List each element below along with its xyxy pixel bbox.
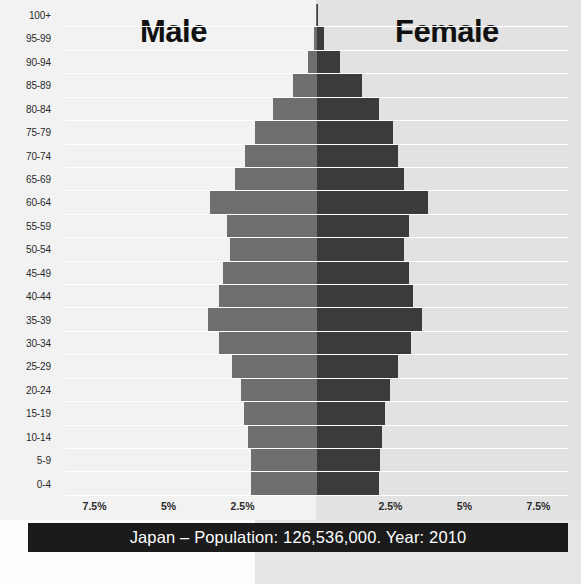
bar-female [317,449,380,471]
pyramid-row [65,285,568,308]
bar-male [227,215,317,237]
pyramid-row [65,355,568,378]
bar-male [219,285,317,307]
age-group-label: 60-64 [26,191,51,214]
bar-male [244,402,316,424]
x-axis-tick-label: 7.5% [526,500,550,512]
x-axis-tick-label: 2.5% [231,500,255,512]
age-group-label: 25-29 [26,355,51,378]
bar-female [317,74,363,96]
pyramid-row [65,121,568,144]
bar-male [245,145,317,167]
pyramid-row [65,4,568,27]
pyramid-row [65,262,568,285]
age-group-label: 20-24 [26,379,51,402]
bar-female [317,262,410,284]
bar-male [230,238,316,260]
bar-male [251,449,317,471]
bar-female [317,379,390,401]
bar-female [317,145,398,167]
bar-male [219,332,317,354]
age-group-axis: 100+95-9990-9485-8980-8475-7970-7465-696… [0,4,62,496]
bar-female [317,98,380,120]
bar-male [235,168,317,190]
bar-male [293,74,316,96]
bar-male [208,308,316,330]
bar-male [251,472,317,494]
bar-male [255,121,317,143]
age-group-label: 85-89 [26,74,51,97]
age-group-label: 75-79 [26,121,51,144]
bar-male [210,191,317,213]
pyramid-plot-area [65,4,568,496]
age-group-label: 35-39 [26,309,51,332]
age-group-label: 45-49 [26,262,51,285]
bar-female [317,121,393,143]
x-axis-tick-label: 2.5% [379,500,403,512]
bar-female [317,51,340,73]
bar-female [317,4,318,26]
x-axis-tick-label: 7.5% [83,500,107,512]
bar-female [317,168,405,190]
age-group-label: 80-84 [26,98,51,121]
population-pyramid-chart: Male Female 100+95-9990-9485-8980-8475-7… [0,0,581,584]
pyramid-row [65,51,568,74]
bar-female [317,355,399,377]
bar-female [317,426,383,448]
pyramid-row [65,332,568,355]
chart-caption: Japan – Population: 126,536,000. Year: 2… [28,523,568,552]
bar-male [273,98,316,120]
pyramid-row [65,98,568,121]
percentage-axis: 7.5%5%2.5%2.5%5%7.5% [65,497,568,519]
x-axis-tick-label: 5% [161,500,176,512]
pyramid-row [65,472,568,495]
x-axis-tick-label: 5% [457,500,472,512]
bar-male [308,51,317,73]
age-group-label: 100+ [29,4,51,27]
pyramid-row [65,426,568,449]
bar-female [317,285,413,307]
pyramid-row [65,27,568,50]
age-group-label: 10-14 [26,426,51,449]
bar-female [317,472,379,494]
pyramid-row [65,168,568,191]
age-group-label: 40-44 [26,285,51,308]
age-group-label: 15-19 [26,402,51,425]
pyramid-row [65,74,568,97]
age-group-label: 70-74 [26,145,51,168]
pyramid-row [65,145,568,168]
age-group-label: 5-9 [37,449,51,472]
age-group-label: 50-54 [26,238,51,261]
age-group-label: 95-99 [26,27,51,50]
pyramid-row [65,238,568,261]
bar-female [317,27,324,49]
bar-male [248,426,317,448]
pyramid-row [65,191,568,214]
age-group-label: 0-4 [37,473,51,496]
age-group-label: 65-69 [26,168,51,191]
pyramid-row [65,215,568,238]
bar-female [317,332,412,354]
bar-female [317,308,423,330]
bar-female [317,238,404,260]
pyramid-row [65,308,568,331]
bar-male [241,379,317,401]
age-group-label: 55-59 [26,215,51,238]
pyramid-row [65,449,568,472]
bar-male [223,262,316,284]
age-group-label: 90-94 [26,51,51,74]
age-group-label: 30-34 [26,332,51,355]
pyramid-row [65,402,568,425]
bar-male [232,355,316,377]
pyramid-row [65,379,568,402]
bar-female [317,215,409,237]
bar-female [317,402,386,424]
bar-female [317,191,429,213]
